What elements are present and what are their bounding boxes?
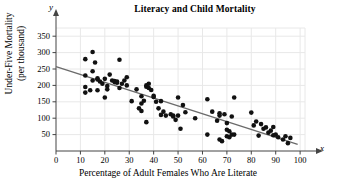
data-point xyxy=(176,95,181,100)
x-tick-label: 30 xyxy=(117,156,141,165)
y-tick-label: 50 xyxy=(26,130,50,139)
x-tick-label: 50 xyxy=(166,156,190,165)
data-point xyxy=(276,135,281,140)
data-point xyxy=(83,85,88,90)
data-point xyxy=(251,123,256,128)
y-tick-label: 350 xyxy=(26,32,50,41)
data-point xyxy=(124,83,129,88)
y-tick-label: 100 xyxy=(26,114,50,123)
data-point xyxy=(210,109,215,114)
data-point xyxy=(217,111,222,116)
data-point xyxy=(220,139,225,144)
data-points xyxy=(83,50,293,146)
data-point xyxy=(222,112,227,117)
data-point xyxy=(159,99,164,104)
data-point xyxy=(259,122,264,127)
data-point xyxy=(205,132,210,137)
data-point xyxy=(249,110,254,115)
data-point xyxy=(232,95,237,100)
x-tick-label: 10 xyxy=(68,156,92,165)
x-tick-label: 80 xyxy=(239,156,263,165)
data-point xyxy=(146,81,151,86)
chart-figure: Literacy and Child Mortality Under-Five … xyxy=(0,0,338,187)
data-point xyxy=(103,95,108,100)
x-axis-arrowhead xyxy=(316,148,323,154)
data-point xyxy=(129,99,134,104)
data-point xyxy=(271,125,276,130)
data-point xyxy=(115,80,120,85)
data-point xyxy=(254,119,259,124)
data-point xyxy=(171,113,176,118)
data-point xyxy=(124,75,129,80)
data-point xyxy=(181,103,186,108)
data-point xyxy=(117,86,122,91)
y-tick-label: 300 xyxy=(26,48,50,57)
data-point xyxy=(183,110,188,115)
data-point xyxy=(161,109,166,114)
x-tick-label: 100 xyxy=(288,156,312,165)
data-point xyxy=(232,132,237,137)
data-point xyxy=(193,116,198,121)
data-point xyxy=(286,141,291,146)
x-tick-label: 40 xyxy=(142,156,166,165)
y-axis-arrowhead xyxy=(53,9,59,16)
data-point xyxy=(264,125,269,130)
data-point xyxy=(107,72,112,77)
data-point xyxy=(88,88,93,93)
data-point xyxy=(117,58,122,63)
data-point xyxy=(149,88,154,93)
data-point xyxy=(134,87,139,92)
data-point xyxy=(90,69,95,74)
data-point xyxy=(95,88,100,93)
x-tick-label: 20 xyxy=(93,156,117,165)
y-tick-label: 250 xyxy=(26,65,50,74)
data-point xyxy=(100,81,105,86)
data-point xyxy=(215,119,220,124)
data-point xyxy=(176,113,181,118)
data-point xyxy=(173,118,178,123)
data-point xyxy=(90,78,95,83)
data-point xyxy=(156,106,161,111)
data-point xyxy=(178,126,183,131)
data-point xyxy=(225,121,230,126)
data-point xyxy=(93,60,98,65)
axis-ticks xyxy=(53,36,301,154)
y-tick-label: 200 xyxy=(26,81,50,90)
data-point xyxy=(83,73,88,78)
data-point xyxy=(283,134,288,139)
data-point xyxy=(83,57,88,62)
x-tick-label: 90 xyxy=(264,156,288,165)
data-point xyxy=(288,136,293,141)
data-point xyxy=(139,94,144,99)
data-point xyxy=(144,120,149,125)
data-point xyxy=(154,100,159,105)
data-point xyxy=(90,50,95,55)
data-point xyxy=(105,87,110,92)
x-tick-label: 0 xyxy=(44,156,68,165)
data-point xyxy=(164,113,169,118)
x-tick-label: 60 xyxy=(190,156,214,165)
data-point xyxy=(139,109,144,114)
data-point xyxy=(103,77,108,82)
x-tick-label: 70 xyxy=(215,156,239,165)
data-point xyxy=(151,95,156,100)
data-point xyxy=(83,90,88,95)
y-tick-label: 150 xyxy=(26,97,50,106)
data-point xyxy=(229,114,234,119)
data-point xyxy=(142,99,147,104)
data-point xyxy=(256,133,261,138)
data-point xyxy=(205,97,210,102)
